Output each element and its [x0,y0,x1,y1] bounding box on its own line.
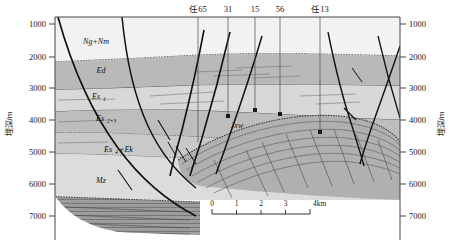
depth-label-left-6000: 6000 [29,179,46,189]
depth-label-right-1000: 1000 [409,19,426,29]
unit-label-es4-sub: 4 [115,149,118,155]
depth-label-right-4000: 4000 [409,115,426,125]
well-label-ren65[interactable]: 任65 [189,4,207,14]
unit-label-es23-sub: 2+3 [107,118,117,124]
well-label-15[interactable]: 15 [251,4,260,14]
axis-title-right: 埋深/m [436,111,446,136]
unit-label-ek-suffix: +Ek [119,145,133,154]
scale-end-label: 4km [313,199,327,208]
depth-label-right-6000: 6000 [409,179,426,189]
section-body [40,17,412,244]
depth-labels-left: 1000 2000 3000 4000 5000 6000 7000 [29,19,46,221]
basement-hatched [40,196,200,244]
well-label-ren13[interactable]: 任13 [311,4,329,14]
depth-label-left-1000: 1000 [29,19,46,29]
axis-title-left: 埋深/m [4,111,14,136]
depth-label-right-2000: 2000 [409,52,426,62]
depth-label-left-3000: 3000 [29,83,46,93]
well-labels: 任65 31 15 56 任13 [189,4,329,14]
well-label-56[interactable]: 56 [276,4,285,14]
geological-cross-section-figure: 1000 2000 3000 4000 5000 6000 7000 1000 … [0,0,454,249]
scale-bar: 0 1 2 3 4km [210,199,326,214]
unit-label-ed: Ed [96,66,107,75]
scale-tick-2: 2 [259,199,263,208]
scale-tick-0: 0 [210,199,214,208]
depth-label-right-3000: 3000 [409,83,426,93]
depth-label-right-5000: 5000 [409,147,426,157]
depth-label-left-4000: 4000 [29,115,46,125]
unit-label-es4-ek-group: Es 4 +Ek [103,145,133,155]
unit-label-es1: Es [91,92,100,101]
depth-label-left-5000: 5000 [29,147,46,157]
cross-section-svg: 1000 2000 3000 4000 5000 6000 7000 1000 … [0,0,454,249]
unit-label-ng-nm: Ng+Nm [82,37,109,46]
depth-label-left-2000: 2000 [29,52,46,62]
unit-label-es1-sub: 1 [103,96,106,102]
well-label-31[interactable]: 31 [224,4,233,14]
unit-label-es4: Es [103,145,112,154]
depth-label-right-7000: 7000 [409,211,426,221]
depth-labels-right: 1000 2000 3000 4000 5000 6000 7000 [409,19,426,221]
depth-label-left-7000: 7000 [29,211,46,221]
scale-tick-1: 1 [235,199,239,208]
unit-label-jxw: Jxw [231,121,244,130]
unit-label-mz: Mz [95,176,107,185]
unit-label-es23: Es [95,114,104,123]
scale-tick-3: 3 [284,199,288,208]
scale-bar-labels: 0 1 2 3 4km [210,199,326,208]
